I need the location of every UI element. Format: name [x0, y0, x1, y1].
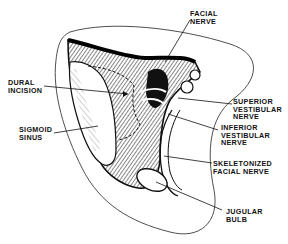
leader-skeletonized-facial — [164, 156, 212, 163]
label-facial-nerve: FACIAL NERVE — [190, 10, 218, 25]
leader-facial-nerve — [165, 20, 190, 62]
label-dural-incision: DURAL INCISION — [8, 79, 42, 94]
ossicle-2 — [181, 81, 193, 93]
leader-inferior-vestibular — [168, 114, 218, 130]
anatomical-figure: FACIAL NERVE DURAL INCISION SIGMOID SINU… — [0, 0, 288, 244]
label-inferior-vestibular-nerve: INFERIOR VESTIBULAR NERVE — [221, 124, 270, 147]
label-sigmoid-sinus: SIGMOID SINUS — [19, 126, 52, 141]
ossicle-1 — [190, 70, 200, 80]
label-superior-vestibular-nerve: SUPERIOR VESTIBULAR NERVE — [233, 98, 282, 121]
label-jugular-bulb: JUGULAR BULB — [226, 208, 263, 223]
leader-superior-vestibular — [178, 98, 232, 104]
leader-jugular-bulb — [156, 182, 222, 210]
label-skeletonized-facial-nerve: SKELETONIZED FACIAL NERVE — [213, 160, 272, 175]
